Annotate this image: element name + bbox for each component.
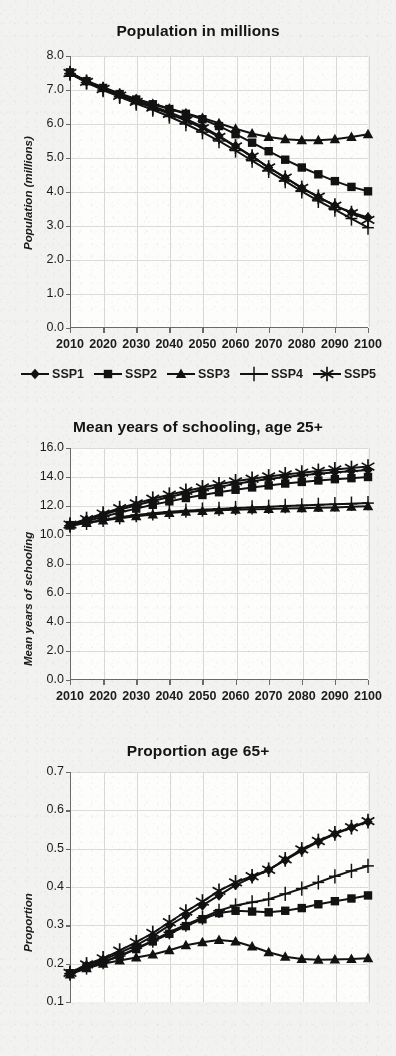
y-tick-mark	[66, 593, 71, 594]
y-tick-mark	[66, 506, 71, 507]
y-tick-label: 0.0	[26, 672, 64, 686]
y-tick-mark	[66, 925, 71, 926]
x-tick-label: 2090	[321, 337, 349, 351]
y-tick-mark	[66, 535, 71, 536]
y-tick-mark	[66, 56, 71, 57]
y-tick-label: 0.1	[26, 994, 64, 1008]
y-tick-mark	[66, 448, 71, 449]
chart-panel-proportion: Proportion age 65+ Proportion 0.10.20.30…	[0, 720, 396, 1056]
x-tick-label: 2030	[122, 337, 150, 351]
x-tick-mark	[368, 680, 369, 685]
legend-marker-square-icon	[93, 366, 123, 382]
x-tick-label: 2070	[255, 689, 283, 703]
chart-legend: SSP1SSP2SSP3SSP4SSP5	[0, 366, 396, 382]
x-tick-label: 2080	[288, 337, 316, 351]
x-tick-mark	[136, 328, 137, 333]
y-tick-mark	[66, 158, 71, 159]
x-tick-label: 2060	[222, 337, 250, 351]
y-tick-label: 2.0	[26, 643, 64, 657]
legend-marker-diamond-icon	[20, 366, 50, 382]
y-tick-label: 0.7	[26, 764, 64, 778]
x-tick-label: 2100	[354, 337, 382, 351]
y-tick-label: 4.0	[26, 184, 64, 198]
x-tick-mark	[103, 328, 104, 333]
y-tick-label: 3.0	[26, 218, 64, 232]
x-tick-mark	[70, 680, 71, 685]
y-tick-mark	[66, 1002, 71, 1003]
y-tick-mark	[66, 964, 71, 965]
x-tick-label: 2090	[321, 689, 349, 703]
x-tick-label: 2070	[255, 337, 283, 351]
y-tick-mark	[66, 124, 71, 125]
x-tick-mark	[236, 328, 237, 333]
y-tick-mark	[66, 887, 71, 888]
y-tick-label: 0.2	[26, 956, 64, 970]
legend-item-ssp4[interactable]: SSP4	[239, 366, 303, 382]
x-tick-mark	[335, 328, 336, 333]
x-tick-label: 2010	[56, 337, 84, 351]
y-tick-mark	[66, 772, 71, 773]
y-tick-label: 14.0	[26, 469, 64, 483]
x-tick-mark	[169, 328, 170, 333]
series-ssp5	[64, 814, 375, 981]
y-tick-label: 4.0	[26, 614, 64, 628]
x-tick-mark	[269, 328, 270, 333]
y-tick-label: 7.0	[26, 82, 64, 96]
y-tick-label: 5.0	[26, 150, 64, 164]
y-tick-label: 1.0	[26, 286, 64, 300]
y-tick-label: 10.0	[26, 527, 64, 541]
chart-panel-schooling: Mean years of schooling, age 25+ Mean ye…	[0, 404, 396, 720]
y-tick-mark	[66, 849, 71, 850]
y-tick-label: 0.0	[26, 320, 64, 334]
y-tick-mark	[66, 477, 71, 478]
y-tick-label: 8.0	[26, 556, 64, 570]
x-tick-label: 2060	[222, 689, 250, 703]
x-tick-label: 2030	[122, 689, 150, 703]
x-tick-mark	[302, 328, 303, 333]
x-tick-mark	[169, 680, 170, 685]
x-tick-label: 2100	[354, 689, 382, 703]
y-tick-label: 0.6	[26, 802, 64, 816]
x-tick-label: 2010	[56, 689, 84, 703]
y-tick-label: 16.0	[26, 440, 64, 454]
y-tick-mark	[66, 810, 71, 811]
legend-label: SSP4	[271, 367, 303, 381]
x-tick-label: 2050	[189, 337, 217, 351]
x-tick-label: 2040	[155, 689, 183, 703]
legend-label: SSP5	[344, 367, 376, 381]
y-tick-label: 6.0	[26, 116, 64, 130]
y-tick-mark	[66, 651, 71, 652]
y-tick-mark	[66, 294, 71, 295]
x-tick-label: 2040	[155, 337, 183, 351]
legend-label: SSP1	[52, 367, 84, 381]
y-tick-mark	[66, 622, 71, 623]
x-tick-mark	[202, 680, 203, 685]
legend-item-ssp5[interactable]: SSP5	[312, 366, 376, 382]
x-tick-mark	[70, 328, 71, 333]
x-tick-mark	[103, 680, 104, 685]
y-tick-mark	[66, 260, 71, 261]
legend-marker-triangle-icon	[166, 366, 196, 382]
x-tick-mark	[335, 680, 336, 685]
y-tick-mark	[66, 226, 71, 227]
x-tick-mark	[269, 680, 270, 685]
legend-item-ssp3[interactable]: SSP3	[166, 366, 230, 382]
x-tick-mark	[236, 680, 237, 685]
chart-panel-population: Population in millions Population (milli…	[0, 0, 396, 404]
x-tick-mark	[302, 680, 303, 685]
x-tick-label: 2050	[189, 689, 217, 703]
y-tick-label: 0.5	[26, 841, 64, 855]
y-tick-mark	[66, 192, 71, 193]
y-tick-label: 2.0	[26, 252, 64, 266]
legend-item-ssp1[interactable]: SSP1	[20, 366, 84, 382]
x-tick-label: 2020	[89, 689, 117, 703]
y-tick-label: 6.0	[26, 585, 64, 599]
y-tick-label: 12.0	[26, 498, 64, 512]
y-tick-label: 0.3	[26, 917, 64, 931]
y-tick-mark	[66, 564, 71, 565]
legend-item-ssp2[interactable]: SSP2	[93, 366, 157, 382]
legend-marker-asterisk-icon	[312, 366, 342, 382]
legend-marker-plus-icon	[239, 366, 269, 382]
y-tick-label: 8.0	[26, 48, 64, 62]
legend-label: SSP2	[125, 367, 157, 381]
